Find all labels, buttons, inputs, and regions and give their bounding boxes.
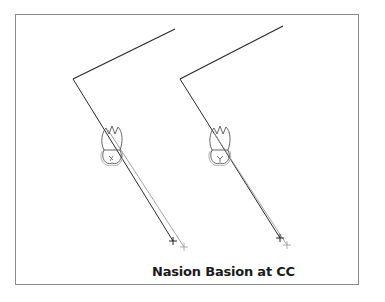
left-cross-marker-dark-icon (169, 237, 177, 245)
right-panel (180, 26, 291, 249)
left-tooth-icon (101, 126, 123, 166)
left-panel (73, 29, 188, 251)
figure-caption: Nasion Basion at CC (0, 264, 385, 279)
right-cross-marker-dark-icon (276, 234, 284, 242)
cephalometric-drawing (0, 0, 385, 302)
left-cross-marker-light-icon (180, 243, 188, 251)
left-nasion-basion-primary (73, 79, 173, 241)
left-sn-line (73, 29, 175, 79)
right-nasion-basion-primary (180, 79, 280, 238)
right-sn-line (180, 26, 283, 79)
left-nasion-basion-secondary (108, 130, 184, 247)
right-cross-marker-light-icon (283, 241, 291, 249)
right-tooth-icon (209, 126, 231, 166)
